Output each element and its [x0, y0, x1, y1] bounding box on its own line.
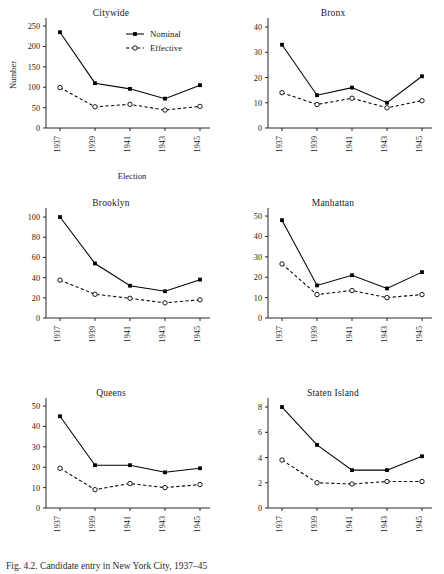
panel-staten-island: Staten Island 0246819371939194119431945 — [222, 380, 444, 570]
y-axis-title: Number — [8, 61, 18, 89]
y-tick-label: 6 — [258, 428, 262, 437]
marker-effective — [315, 481, 319, 485]
plot-svg: 0102030405019371939194119431945 — [222, 190, 444, 380]
marker-effective — [385, 295, 389, 299]
series-line-effective — [60, 468, 200, 489]
marker-effective — [163, 108, 167, 112]
panel-citywide: Citywide 0501001502002501937193919411943… — [0, 0, 222, 190]
x-tick-label: 1945 — [193, 516, 202, 532]
y-tick-label: 10 — [32, 484, 40, 493]
marker-nominal — [315, 443, 319, 447]
marker-nominal — [128, 284, 132, 288]
marker-effective — [128, 102, 132, 106]
panel-grid: Citywide 0501001502002501937193919411943… — [0, 0, 444, 560]
x-tick-label: 1939 — [310, 136, 319, 152]
marker-effective — [93, 105, 97, 109]
marker-effective — [198, 482, 202, 486]
marker-nominal — [315, 283, 319, 287]
marker-effective — [350, 482, 354, 486]
x-tick-label: 1943 — [380, 136, 389, 152]
y-tick-label: 40 — [254, 232, 262, 241]
marker-nominal — [163, 289, 167, 293]
marker-effective — [420, 479, 424, 483]
panel-manhattan: Manhattan 010203040501937193919411943194… — [222, 190, 444, 380]
marker-nominal — [350, 468, 354, 472]
y-tick-label: 100 — [28, 83, 40, 92]
marker-effective — [93, 292, 97, 296]
y-tick-label: 30 — [254, 253, 262, 262]
x-axis-title: Election — [118, 171, 147, 181]
marker-nominal — [163, 470, 167, 474]
marker-nominal — [385, 101, 389, 105]
marker-effective — [385, 479, 389, 483]
marker-effective — [93, 487, 97, 491]
marker-effective — [315, 292, 319, 296]
x-tick-label: 1939 — [310, 516, 319, 532]
x-tick-label: 1941 — [345, 326, 354, 342]
x-tick-label: 1945 — [415, 516, 424, 532]
figure-caption: Fig. 4.2. Candidate entry in New York Ci… — [6, 561, 207, 571]
marker-nominal — [198, 466, 202, 470]
y-tick-label: 150 — [28, 63, 40, 72]
series-line-nominal — [282, 220, 422, 288]
x-tick-label: 1939 — [88, 326, 97, 342]
marker-nominal — [198, 278, 202, 282]
panel-queens: Queens 0102030405019371939194119431945 — [0, 380, 222, 570]
y-tick-label: 20 — [254, 273, 262, 282]
marker-nominal — [420, 454, 424, 458]
x-tick-label: 1943 — [380, 516, 389, 532]
y-tick-label: 20 — [254, 74, 262, 83]
x-tick-label: 1937 — [275, 326, 284, 342]
y-tick-label: 40 — [32, 274, 40, 283]
y-tick-label: 0 — [258, 504, 262, 513]
x-tick-label: 1937 — [275, 516, 284, 532]
legend-marker-effective — [133, 46, 137, 50]
marker-effective — [420, 99, 424, 103]
marker-nominal — [198, 83, 202, 87]
marker-effective — [163, 485, 167, 489]
y-tick-label: 20 — [32, 294, 40, 303]
x-tick-label: 1937 — [53, 326, 62, 342]
marker-nominal — [280, 405, 284, 409]
panel-bronx: Bronx 01020304019371939194119431945 — [222, 0, 444, 190]
x-tick-label: 1937 — [53, 516, 62, 532]
x-tick-label: 1945 — [193, 136, 202, 152]
marker-effective — [385, 106, 389, 110]
y-tick-label: 0 — [258, 124, 262, 133]
y-tick-label: 2 — [258, 479, 262, 488]
marker-nominal — [58, 414, 62, 418]
x-tick-label: 1937 — [53, 136, 62, 152]
x-tick-label: 1939 — [88, 516, 97, 532]
marker-effective — [58, 466, 62, 470]
marker-nominal — [350, 86, 354, 90]
x-tick-label: 1941 — [345, 136, 354, 152]
marker-nominal — [350, 273, 354, 277]
x-tick-label: 1937 — [275, 136, 284, 152]
marker-effective — [420, 292, 424, 296]
x-tick-label: 1945 — [193, 326, 202, 342]
series-line-nominal — [282, 407, 422, 470]
x-tick-label: 1939 — [88, 136, 97, 152]
marker-nominal — [93, 262, 97, 266]
plot-svg: 0246819371939194119431945 — [222, 380, 444, 570]
y-tick-label: 50 — [32, 104, 40, 113]
marker-nominal — [315, 93, 319, 97]
marker-nominal — [128, 87, 132, 91]
marker-effective — [198, 298, 202, 302]
marker-nominal — [280, 218, 284, 222]
marker-nominal — [128, 463, 132, 467]
marker-nominal — [420, 270, 424, 274]
marker-effective — [163, 301, 167, 305]
marker-effective — [315, 102, 319, 106]
y-tick-label: 100 — [28, 213, 40, 222]
x-tick-label: 1943 — [380, 326, 389, 342]
marker-effective — [280, 262, 284, 266]
marker-effective — [58, 85, 62, 89]
marker-effective — [128, 481, 132, 485]
x-tick-label: 1941 — [123, 516, 132, 532]
y-tick-label: 10 — [254, 99, 262, 108]
x-tick-label: 1941 — [345, 516, 354, 532]
legend-label: Effective — [150, 43, 182, 53]
y-tick-label: 60 — [32, 253, 40, 262]
y-tick-label: 0 — [36, 314, 40, 323]
